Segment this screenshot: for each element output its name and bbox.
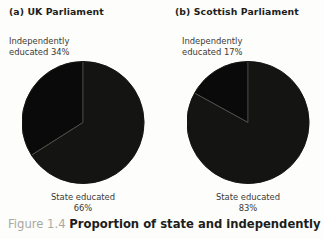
independent-label-uk: Independently educated 34% <box>9 36 70 58</box>
state-label-scotland-line1: State educated <box>198 192 298 203</box>
panel-title-scottish-parliament: (b) Scottish Parliament <box>175 6 299 17</box>
figure-caption-number: Figure 1.4 <box>8 217 66 231</box>
pie-chart-uk-svg <box>22 60 146 186</box>
independent-label-scotland-line2: educated 17% <box>182 47 243 58</box>
pie-chart-uk-parliament <box>22 60 146 186</box>
state-label-scotland: State educated 83% <box>198 192 298 214</box>
independent-label-scotland: Independently educated 17% <box>182 36 243 58</box>
state-label-uk-line1: State educated <box>33 192 133 203</box>
state-label-uk: State educated 66% <box>33 192 133 214</box>
figure-caption-text: Proportion of state and independently <box>69 217 320 231</box>
independent-label-uk-line1: Independently <box>9 36 70 47</box>
figure-caption: Figure 1.4 Proportion of state and indep… <box>8 217 324 232</box>
state-label-uk-line2: 66% <box>33 203 133 214</box>
figure-container: (a) UK Parliament (b) Scottish Parliamen… <box>0 0 324 239</box>
pie-chart-scottish-svg <box>187 60 324 186</box>
pie-chart-scottish-parliament <box>187 60 324 186</box>
state-label-scotland-line2: 83% <box>198 203 298 214</box>
panel-title-uk-parliament: (a) UK Parliament <box>9 6 104 17</box>
independent-label-uk-line2: educated 34% <box>9 47 70 58</box>
independent-label-scotland-line1: Independently <box>182 36 243 47</box>
